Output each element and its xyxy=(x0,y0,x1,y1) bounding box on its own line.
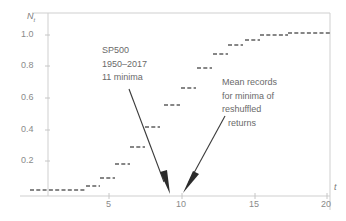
y-axis-label-sub: t xyxy=(34,17,36,23)
reshuffled-annotation-line-4: returns xyxy=(222,117,277,131)
y-tick-label-5: 0.2 xyxy=(21,155,34,165)
plot-canvas xyxy=(0,0,346,221)
sp500-annotation-line-3: 11 minima xyxy=(102,71,147,85)
y-tick-label-4: 0.4 xyxy=(21,124,34,134)
chart-figure: Nt t 1.0 0.8 0.6 0.4 0.2 5 10 15 20 SP50… xyxy=(0,0,346,221)
sp500-annotation-line-1: SP500 xyxy=(102,44,147,58)
data-steps xyxy=(30,33,330,190)
reshuffled-annotation-line-3: reshuffled xyxy=(222,103,277,117)
reshuffled-annotation-line-1: Mean records xyxy=(222,76,277,90)
sp500-annotation-line-2: 1950–2017 xyxy=(102,58,147,72)
x-tick-label-4: 20 xyxy=(321,199,331,209)
y-tick-label-3: 0.6 xyxy=(21,92,34,102)
x-tick-label-2: 10 xyxy=(176,199,186,209)
reshuffled-annotation: Mean records for minima of reshuffled re… xyxy=(222,76,277,130)
reshuffled-annotation-line-2: for minima of xyxy=(222,90,277,104)
reshuffled-arrow xyxy=(183,116,225,193)
sp500-annotation: SP500 1950–2017 11 minima xyxy=(102,44,147,85)
x-axis-label: t xyxy=(334,182,337,192)
sp500-arrow xyxy=(129,89,170,194)
y-tick-label-1: 1.0 xyxy=(21,29,34,39)
x-tick-label-1: 5 xyxy=(106,199,111,209)
x-tick-label-3: 15 xyxy=(249,199,259,209)
y-tick-label-2: 0.8 xyxy=(21,60,34,70)
x-axis-label-text: t xyxy=(334,182,337,192)
y-axis-label: Nt xyxy=(27,11,35,23)
